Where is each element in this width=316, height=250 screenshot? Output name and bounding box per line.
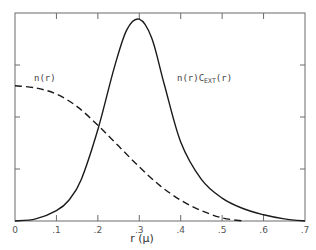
- plot-frame: [15, 13, 305, 221]
- x-tick-label: 0: [12, 225, 18, 235]
- x-tick-label: .7: [301, 225, 310, 235]
- top-axis-ticks: [56, 13, 263, 19]
- x-tick-label: .5: [218, 225, 227, 235]
- n-r-cext-curve-label: n(r)CEXT(r): [177, 73, 232, 85]
- x-tick-label: .2: [94, 225, 103, 235]
- x-tick-label: .4: [176, 225, 185, 235]
- x-tick-label: .6: [259, 225, 268, 235]
- line-chart: 0.1.2.3.4.5.6.7 n(r) n(r)CEXT(r) r (μ): [0, 0, 316, 250]
- y-axis-ticks: [15, 65, 305, 169]
- x-axis-tick-labels: 0.1.2.3.4.5.6.7: [12, 225, 309, 235]
- x-axis-ticks: [56, 215, 263, 221]
- n-r-curve-label: n(r): [34, 73, 56, 83]
- x-axis-label: r (μ): [130, 232, 154, 245]
- n-r-cext-solid-curve: [15, 19, 305, 221]
- n-r-dashed-curve: [15, 86, 243, 221]
- x-tick-label: .1: [52, 225, 61, 235]
